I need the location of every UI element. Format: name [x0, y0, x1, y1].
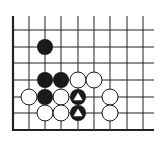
white-stone: [53, 89, 69, 105]
white-stone: [102, 89, 118, 105]
black-stone: [37, 89, 53, 105]
black-stone-icon: [37, 89, 53, 105]
black-stone-icon: [37, 39, 53, 55]
white-stone-icon: [102, 105, 118, 121]
white-stone-icon: [70, 72, 86, 88]
white-stone-icon: [102, 89, 118, 105]
white-stone: [70, 72, 86, 88]
black-stone: [37, 72, 53, 88]
white-stone-icon: [53, 105, 69, 121]
white-stone-icon: [21, 89, 37, 105]
white-stone: [37, 105, 53, 121]
white-stone: [53, 105, 69, 121]
white-stone-icon: [86, 72, 102, 88]
black-stone: [70, 89, 86, 105]
black-stone-icon: [53, 72, 69, 88]
white-stone: [86, 72, 102, 88]
black-stone: [37, 39, 53, 55]
white-stone: [102, 105, 118, 121]
white-stone-icon: [37, 105, 53, 121]
black-stone: [53, 72, 69, 88]
white-stone: [21, 89, 37, 105]
go-board-diagram: [0, 0, 166, 141]
black-stone: [70, 105, 86, 121]
white-stone-icon: [53, 89, 69, 105]
black-stone-icon: [37, 72, 53, 88]
